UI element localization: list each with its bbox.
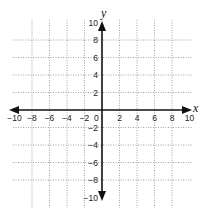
x-tick-label: −2 bbox=[80, 113, 90, 123]
y-tick-label: 6 bbox=[93, 53, 98, 63]
y-tick-label: −6 bbox=[88, 158, 98, 168]
y-tick-label: −10 bbox=[84, 193, 99, 203]
x-tick-label: −8 bbox=[27, 113, 37, 123]
x-tick-label: 2 bbox=[117, 113, 122, 123]
coordinate-plane: −10−8−6−4−2246810108642−2−4−6−8−10 x y 0 bbox=[0, 0, 201, 212]
x-tick-label: −10 bbox=[7, 113, 22, 123]
y-axis-up-arrow-icon bbox=[98, 21, 106, 31]
axes bbox=[9, 21, 192, 201]
origin-label: 0 bbox=[94, 113, 99, 123]
y-axis-label: y bbox=[100, 6, 107, 20]
x-tick-label: −4 bbox=[62, 113, 72, 123]
y-axis-down-arrow-icon bbox=[98, 191, 106, 201]
x-tick-label: −6 bbox=[45, 113, 55, 123]
y-tick-label: −4 bbox=[88, 140, 98, 150]
y-tick-label: 8 bbox=[93, 35, 98, 45]
y-tick-label: −2 bbox=[88, 123, 98, 133]
x-axis-label: x bbox=[192, 101, 199, 115]
x-tick-label: 8 bbox=[170, 113, 175, 123]
x-tick-label: 6 bbox=[152, 113, 157, 123]
y-tick-label: −8 bbox=[88, 175, 98, 185]
y-tick-label: 2 bbox=[93, 88, 98, 98]
y-tick-label: 10 bbox=[89, 18, 99, 28]
x-tick-label: 4 bbox=[135, 113, 140, 123]
y-tick-label: 4 bbox=[93, 70, 98, 80]
